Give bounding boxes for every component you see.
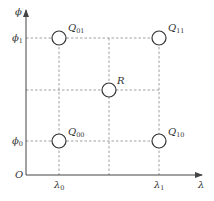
interpolation-diagram: ϕ λ O ϕ1 ϕ0 λ0 λ1 Q01 Q11 R Q00 Q10 [0,0,214,201]
y-tick-phi1: ϕ1 [12,33,23,45]
point-q00-circle [52,134,66,148]
point-r-circle [102,83,116,97]
origin-label: O [15,170,23,180]
grid-lines [26,38,159,175]
y-tick-phi0: ϕ0 [12,136,23,148]
point-q01-circle [52,31,66,45]
point-label-q01: Q01 [68,23,84,35]
point-q10-circle [152,134,166,148]
point-label-r: R [117,76,125,86]
y-axis-label: ϕ [15,7,22,17]
point-label-q11: Q11 [168,23,184,35]
point-label-q10: Q10 [168,127,184,139]
point-q11-circle [152,31,166,45]
x-tick-lambda0: λ0 [54,180,64,192]
x-axis-label: λ [198,180,204,190]
point-label-q00: Q00 [68,127,84,139]
x-tick-lambda1: λ1 [154,180,164,192]
